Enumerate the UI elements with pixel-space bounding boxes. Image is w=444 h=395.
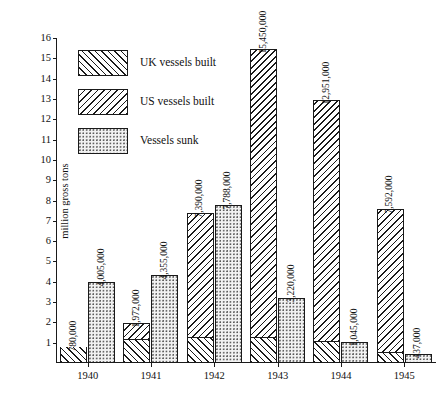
- x-tick-mark: [151, 363, 152, 367]
- value-label-built-1942: 7,390,000: [195, 179, 205, 217]
- value-label-built-1941: 1,972,000: [131, 289, 141, 327]
- bar-segment-uk-1945: [378, 352, 403, 362]
- bar-segment-us-1943: [251, 50, 276, 337]
- bar-vessels-sunk-1943[interactable]: [278, 298, 305, 363]
- x-tick-mark: [278, 363, 279, 367]
- bar-segment-us-1942: [188, 214, 213, 338]
- legend-label-us: US vessels built: [140, 96, 214, 108]
- bar-vessels-sunk-1941[interactable]: [151, 275, 178, 363]
- bar-vessels-built-1945[interactable]: [377, 209, 404, 363]
- chart-legend: UK vessels built US vessels built Vessel…: [78, 50, 216, 167]
- legend-label-sunk: Vessels sunk: [140, 135, 198, 147]
- bar-vessels-built-1943[interactable]: [250, 49, 277, 363]
- bar-vessels-sunk-1942[interactable]: [215, 205, 242, 363]
- dotted-swatch-icon: [78, 128, 128, 154]
- bar-vessels-built-1942[interactable]: [187, 213, 214, 363]
- x-tick-mark: [88, 363, 89, 367]
- x-tick-mark: [214, 363, 215, 367]
- bar-segment-uk-1941: [124, 339, 149, 362]
- value-label-sunk-1945: 437,000: [413, 328, 423, 359]
- value-label-built-1940: 780,000: [68, 321, 78, 352]
- bar-segment-uk-1943: [251, 337, 276, 362]
- value-label-sunk-1940: 4,005,000: [96, 248, 106, 286]
- legend-item-vessels-sunk: Vessels sunk: [78, 128, 216, 154]
- bar-segment-uk-1942: [188, 337, 213, 362]
- bar-segment-us-1944: [314, 101, 339, 342]
- bar-segment-us-1945: [378, 210, 403, 353]
- value-label-built-1945: 7,592,000: [385, 175, 395, 213]
- value-label-built-1944: 12,951,000: [321, 62, 331, 105]
- bar-segment-uk-1944: [314, 341, 339, 362]
- value-label-sunk-1944: 1,045,000: [349, 308, 359, 346]
- x-tick-mark: [404, 363, 405, 367]
- bar-vessels-built-1944[interactable]: [313, 100, 340, 363]
- value-label-sunk-1942: 7,788,000: [223, 171, 233, 209]
- value-label-sunk-1943: 3,220,000: [286, 264, 296, 302]
- chart-container: million gross tons 123456789101112131415…: [0, 0, 444, 395]
- legend-label-uk: UK vessels built: [140, 57, 216, 69]
- bar-group-1945: 7,592,000437,000: [373, 38, 436, 363]
- bar-vessels-sunk-1940[interactable]: [88, 282, 115, 363]
- back-hatch-swatch-icon: [78, 89, 128, 115]
- x-tick-mark: [341, 363, 342, 367]
- value-label-built-1943: 15,450,000: [258, 11, 268, 54]
- value-label-sunk-1941: 4,355,000: [159, 241, 169, 279]
- bar-group-1943: 15,450,0003,220,000: [246, 38, 309, 363]
- bar-vessels-built-1941[interactable]: [123, 323, 150, 363]
- bar-group-1944: 12,951,0001,045,000: [309, 38, 372, 363]
- forward-hatch-swatch-icon: [78, 50, 128, 76]
- legend-item-us-vessels-built: US vessels built: [78, 89, 216, 115]
- legend-item-uk-vessels-built: UK vessels built: [78, 50, 216, 76]
